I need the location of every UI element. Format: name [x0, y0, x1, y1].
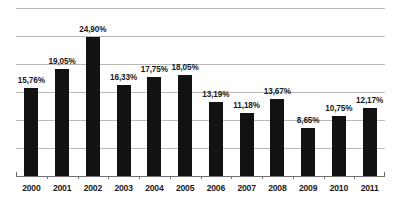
- axis-tick: [262, 176, 263, 179]
- bar-slot: 24,90%: [78, 8, 109, 176]
- bar-slot: 13,19%: [201, 8, 232, 176]
- axis-tick: [108, 176, 109, 179]
- bar[interactable]: [209, 102, 223, 176]
- category-label: 2011: [354, 183, 385, 193]
- bar-value-label: 13,19%: [202, 90, 229, 99]
- bar-value-label: 19,05%: [49, 57, 76, 66]
- category-label: 2006: [201, 183, 232, 193]
- axis-tick: [324, 176, 325, 179]
- bar-value-label: 24,90%: [79, 25, 106, 34]
- category-label: 2000: [16, 183, 47, 193]
- x-axis-right-cap: [384, 172, 385, 177]
- axis-tick: [139, 176, 140, 179]
- axis-tick: [170, 176, 171, 179]
- bar-slot: 16,33%: [108, 8, 139, 176]
- x-axis-category-labels: 2000200120022003200420052006200720082009…: [16, 183, 385, 199]
- bar-slot: 8,65%: [293, 8, 324, 176]
- bar-value-label: 18,05%: [172, 63, 199, 72]
- bar-value-label: 16,33%: [110, 73, 137, 82]
- axis-tick: [201, 176, 202, 179]
- bar-value-label: 13,67%: [264, 87, 291, 96]
- bar[interactable]: [270, 99, 284, 176]
- bar-value-label: 10,75%: [325, 104, 352, 113]
- category-label: 2002: [78, 183, 109, 193]
- bar-slot: 17,75%: [139, 8, 170, 176]
- category-label: 2003: [108, 183, 139, 193]
- bar[interactable]: [301, 128, 315, 176]
- axis-tick: [293, 176, 294, 179]
- axis-tick: [47, 176, 48, 179]
- bar[interactable]: [178, 75, 192, 176]
- bar-slot: 11,18%: [231, 8, 262, 176]
- bar-chart: 15,76%19,05%24,90%16,33%17,75%18,05%13,1…: [0, 0, 395, 205]
- bar-value-label: 12,17%: [356, 96, 383, 105]
- x-axis-left-cap: [16, 172, 17, 177]
- axis-tick: [78, 176, 79, 179]
- axis-tick: [231, 176, 232, 179]
- bar-slot: 10,75%: [324, 8, 355, 176]
- bar-slot: 18,05%: [170, 8, 201, 176]
- bar[interactable]: [55, 69, 69, 176]
- bar[interactable]: [147, 77, 161, 176]
- bar[interactable]: [240, 113, 254, 176]
- bar-slot: 15,76%: [16, 8, 47, 176]
- chart-plot-area: 15,76%19,05%24,90%16,33%17,75%18,05%13,1…: [16, 8, 385, 176]
- category-label: 2009: [293, 183, 324, 193]
- category-label: 2001: [47, 183, 78, 193]
- bar[interactable]: [117, 85, 131, 176]
- bar-value-label: 11,18%: [233, 101, 260, 110]
- bar[interactable]: [332, 116, 346, 176]
- bar[interactable]: [363, 108, 377, 176]
- category-label: 2007: [231, 183, 262, 193]
- bar[interactable]: [86, 37, 100, 176]
- bar-value-label: 17,75%: [141, 65, 168, 74]
- bar-slot: 19,05%: [47, 8, 78, 176]
- bar-slot: 12,17%: [354, 8, 385, 176]
- axis-tick: [354, 176, 355, 179]
- bar-value-label: 15,76%: [18, 76, 45, 85]
- category-label: 2004: [139, 183, 170, 193]
- bar-value-label: 8,65%: [297, 116, 320, 125]
- bar[interactable]: [24, 88, 38, 176]
- bar-slot: 13,67%: [262, 8, 293, 176]
- category-label: 2008: [262, 183, 293, 193]
- category-label: 2010: [324, 183, 355, 193]
- category-label: 2005: [170, 183, 201, 193]
